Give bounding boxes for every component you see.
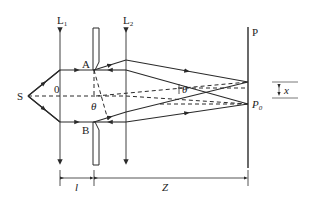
label-screen: P	[252, 26, 258, 38]
label-edge-a: A	[82, 58, 90, 70]
label-source: S	[17, 90, 23, 102]
label-dist-z: Z	[162, 181, 169, 193]
slit-blade-upper	[93, 28, 99, 70]
label-angle-left: θ	[91, 100, 97, 112]
label-offset-x: x	[283, 84, 289, 96]
optics-diagram: L1 L2 P S A B 0 θ θ P0 x l Z	[0, 0, 312, 205]
slit-blade-lower	[93, 122, 99, 165]
label-lens1: L1	[57, 14, 68, 28]
dimension-lines	[60, 170, 248, 186]
label-lens2: L2	[123, 14, 134, 28]
label-edge-b: B	[82, 124, 89, 136]
label-point-p0: P0	[251, 98, 263, 112]
label-dist-l: l	[75, 181, 78, 193]
diffracted-rays	[94, 60, 248, 122]
label-origin: 0	[54, 83, 60, 95]
label-angle-right: θ	[182, 83, 188, 95]
